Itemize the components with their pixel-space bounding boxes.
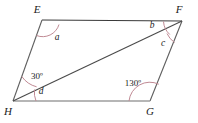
edge-FG bbox=[150, 21, 182, 101]
vertex-label-E: E bbox=[33, 3, 41, 15]
geometry-figure: E F G H a b c 30º d 130º bbox=[0, 0, 198, 123]
angle-arc-d bbox=[34, 90, 36, 102]
angle-label-b: b bbox=[150, 20, 155, 30]
angle-label-d: d bbox=[39, 86, 44, 96]
angle-label-a: a bbox=[55, 32, 60, 42]
angle-arc-c bbox=[167, 34, 175, 43]
angle-label-30: 30º bbox=[31, 71, 43, 81]
angle-label-130: 130º bbox=[125, 78, 142, 88]
edge-EF bbox=[42, 20, 182, 21]
vertex-label-F: F bbox=[175, 3, 183, 15]
vertex-label-G: G bbox=[146, 105, 154, 117]
angle-label-c: c bbox=[161, 38, 166, 48]
parallelogram-diagram: E F G H a b c 30º d 130º bbox=[0, 0, 198, 123]
vertex-label-H: H bbox=[3, 105, 13, 117]
